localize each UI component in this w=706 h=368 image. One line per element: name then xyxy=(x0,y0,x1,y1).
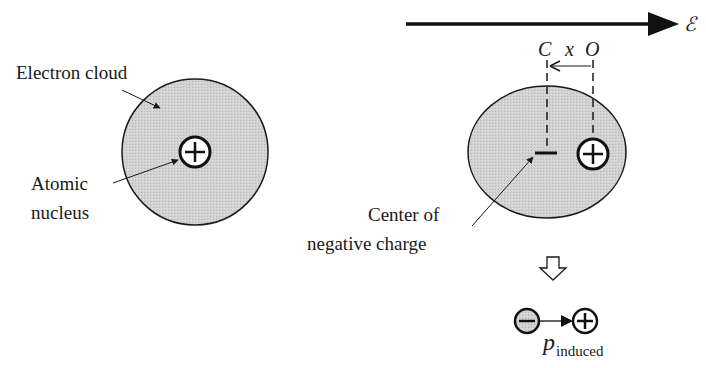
dipole-label-subscript: induced xyxy=(556,343,604,359)
field-symbol-label: ℰ xyxy=(684,13,698,35)
hollow-down-arrow-icon xyxy=(540,257,566,280)
positive-charge-icon xyxy=(573,309,597,333)
electron-cloud-label: Electron cloud xyxy=(16,62,128,83)
atomic-nucleus-label-line1: Atomic xyxy=(31,173,88,194)
label-x: x xyxy=(564,38,574,60)
nucleus-plus-icon xyxy=(578,139,608,169)
nucleus-plus-icon xyxy=(180,137,210,167)
label-o: O xyxy=(585,38,599,60)
negative-charge-icon xyxy=(515,309,539,333)
dipole-label: p xyxy=(541,329,555,355)
left-atom: Electron cloud Atomic nucleus xyxy=(16,62,268,225)
electric-field-arrow: ℰ xyxy=(406,12,698,36)
induced-dipole: p induced xyxy=(515,309,604,359)
polarization-diagram: Electron cloud Atomic nucleus ℰ C x O xyxy=(0,0,706,368)
center-label-line1: Center of xyxy=(368,204,440,225)
label-c: C xyxy=(538,38,552,60)
atomic-nucleus-label-line2: nucleus xyxy=(31,202,89,223)
right-atom: C x O Center of negative charge xyxy=(307,38,626,254)
center-label-line2: negative charge xyxy=(307,233,426,254)
